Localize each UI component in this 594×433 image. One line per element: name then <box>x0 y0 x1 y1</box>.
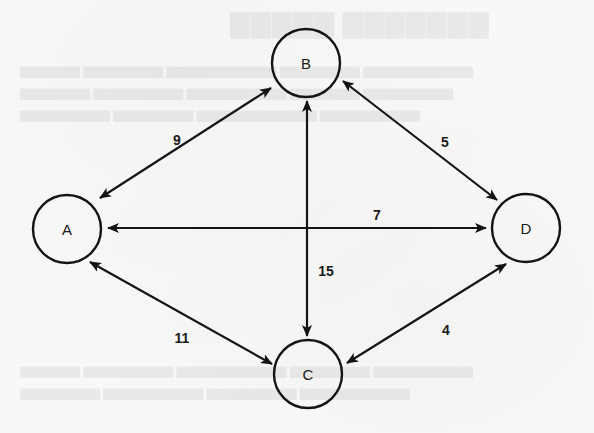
edge-b-c: 15 <box>307 101 334 336</box>
edge-c-d: 4 <box>347 264 506 363</box>
edges-group: 95715114 <box>90 81 506 364</box>
node-label: B <box>301 55 311 72</box>
edge-weight-label: 7 <box>373 207 381 223</box>
double-arrow-icon <box>347 264 506 363</box>
node-a: A <box>33 195 101 263</box>
edge-b-d: 5 <box>343 81 497 200</box>
nodes-group: ABCD <box>33 29 560 408</box>
edge-a-d: 7 <box>108 207 486 228</box>
edge-weight-label: 5 <box>441 134 449 150</box>
double-arrow-icon <box>100 88 271 198</box>
edge-weight-label: 11 <box>175 330 190 346</box>
node-c: C <box>274 340 342 408</box>
graph-diagram: 95715114 ABCD <box>0 0 594 433</box>
node-d: D <box>492 194 560 262</box>
node-label: D <box>521 220 532 237</box>
edge-weight-label: 9 <box>173 132 181 148</box>
diagram-canvas: ▇▇▇▇▇ ▇▇▇▇▇▇▇ ▆▆▆▆▆▆ ▆▆▆▆▆▆▆▆ ▆▆▆▆▆▆▆▆▆▆… <box>0 0 594 433</box>
double-arrow-icon <box>343 81 497 200</box>
node-label: C <box>303 366 314 383</box>
edge-a-b: 9 <box>100 88 271 198</box>
edge-a-c: 11 <box>90 262 272 364</box>
node-label: A <box>62 221 72 238</box>
edge-weight-label: 15 <box>318 263 334 279</box>
edge-weight-label: 4 <box>442 322 450 338</box>
double-arrow-icon <box>90 262 272 364</box>
node-b: B <box>272 29 340 97</box>
